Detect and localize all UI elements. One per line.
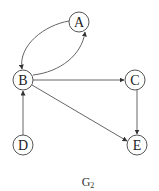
edge-b-to-e [32, 85, 127, 141]
edge-b-to-a [33, 32, 85, 75]
graph-diagram: A B C D E G2 [0, 0, 159, 191]
node-e: E [127, 135, 147, 155]
node-c-label: C [130, 73, 139, 88]
graph-caption: G2 [82, 175, 95, 190]
node-e-label: E [133, 138, 142, 153]
caption-main: G [82, 175, 91, 189]
node-d-label: D [18, 138, 28, 153]
node-b: B [13, 70, 33, 90]
node-a-label: A [74, 15, 85, 30]
node-a: A [69, 12, 89, 32]
edge-a-to-b [22, 21, 69, 69]
caption-subscript: 2 [90, 181, 94, 190]
node-b-label: B [18, 73, 27, 88]
node-c: C [125, 70, 145, 90]
node-d: D [13, 135, 33, 155]
